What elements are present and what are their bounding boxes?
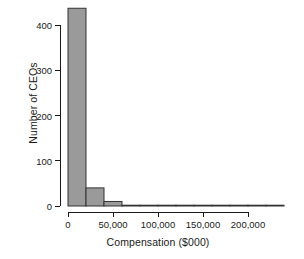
- histogram-bar: [68, 8, 86, 206]
- histogram-figure: Number of CEOs Compensation ($000) 01002…: [0, 0, 304, 259]
- x-tick-label: 0: [65, 219, 70, 230]
- histogram-bar: [230, 205, 248, 206]
- y-tick-label: 300: [22, 65, 52, 76]
- histogram-bar: [248, 205, 266, 206]
- histogram-bar: [194, 205, 212, 206]
- y-tick-label: 0: [22, 201, 52, 212]
- histogram-bar: [212, 205, 230, 206]
- histogram-bar: [158, 205, 176, 206]
- y-tick-label: 400: [22, 20, 52, 31]
- x-tick-label: 50,000: [98, 219, 127, 230]
- histogram-bar: [140, 205, 158, 206]
- y-tick-label: 200: [22, 110, 52, 121]
- histogram-bar: [104, 201, 122, 206]
- histogram-bar: [176, 205, 194, 206]
- histogram-bar: [86, 188, 104, 206]
- x-tick-label: 100,000: [141, 219, 175, 230]
- bars-group: [68, 8, 284, 206]
- x-tick-label: 150,000: [186, 219, 220, 230]
- histogram-bar: [122, 205, 140, 206]
- y-tick-label: 100: [22, 155, 52, 166]
- x-tick-label: 200,000: [231, 219, 265, 230]
- histogram-bar: [266, 205, 284, 206]
